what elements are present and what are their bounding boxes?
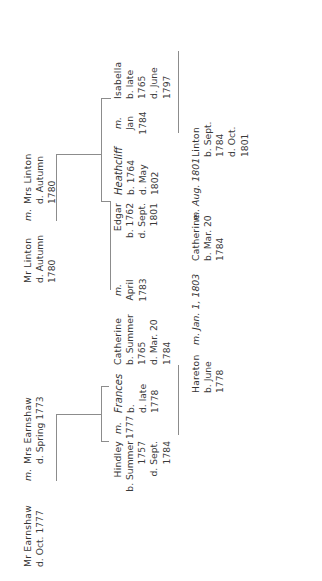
node-heathcliff: Heathcliff b. 1764 d. May 1802 <box>112 147 162 195</box>
hindley-marriage-symbol: m. <box>112 417 124 439</box>
heathcliff-name: Heathcliff <box>112 147 125 195</box>
mrs-earnshaw-death: d. Spring 1773 <box>34 396 46 464</box>
linton-descent-line <box>56 154 102 155</box>
isabella-death: d. June <box>148 62 160 99</box>
node-hindley: Hindley b. Summer 1757 d. Sept. 1784 <box>112 441 173 519</box>
hareton-marriage: m. Jan. 1, 1803 <box>190 274 202 345</box>
heathcliff-marriage-symbol: m. <box>112 109 124 137</box>
isabella-death-year: 1797 <box>161 62 173 99</box>
catherine-elder-death: d. Mar. 20 <box>148 314 160 365</box>
heathcliff-marriage-month: Jan <box>124 109 136 137</box>
hindley-frances-union-line <box>178 365 179 435</box>
linton-death: d. Oct. <box>226 121 238 157</box>
node-edgar: Edgar b. 1762 d. Sept. 1801 <box>112 203 161 265</box>
heathcliff-marriage-year: 1784 <box>137 109 149 137</box>
mrs-earnshaw-name: Mrs Earnshaw <box>22 396 34 464</box>
mrs-linton-death: d. Autumn <box>34 154 46 204</box>
node-catherine-elder: Catherine b. Summer 1765 d. Mar. 20 1784 <box>112 314 173 365</box>
catherine-elder-marriage-month: April <box>124 273 136 307</box>
isabella-birth: b. late <box>124 62 136 99</box>
frances-death-year: 1778 <box>149 374 161 413</box>
diagram-rotation-wrapper: Mr Earnshaw d. Oct. 1777 m. Mrs Earnshaw… <box>0 0 322 581</box>
isabella-birth-year: 1765 <box>136 62 148 99</box>
linton-child-edgar-line <box>101 154 102 202</box>
edgar-death: d. Sept. <box>136 203 148 265</box>
linton-child-isabella-line <box>101 99 102 155</box>
family-tree-diagram: Mr Earnshaw d. Oct. 1777 m. Mrs Earnshaw… <box>0 0 322 581</box>
node-hareton: Hareton b. June 1778 <box>190 354 226 393</box>
frances-death: d. late <box>137 374 149 413</box>
catherine-elder-marriage: m. April 1783 <box>112 273 149 307</box>
hindley-marriage: m. 1777 <box>112 417 137 439</box>
heathcliff-death: d. May <box>137 147 149 195</box>
frances-birth: b. <box>125 374 137 413</box>
catherine-elder-birth: b. Summer <box>124 314 136 365</box>
linton-death-year: 1801 <box>239 121 251 157</box>
frances-name: Frances <box>112 374 125 413</box>
hindley-marriage-year: 1777 <box>124 417 136 439</box>
catherine-younger-birth-year: 1784 <box>214 214 226 261</box>
catherine-elder-marriage-year: 1783 <box>137 273 149 307</box>
node-isabella: Isabella b. late 1765 d. June 1797 <box>112 62 173 99</box>
earnshaw-union-line <box>56 415 57 481</box>
hindley-drop-line <box>101 441 109 442</box>
catherine-younger-birth: b. Mar. 20 <box>202 214 214 261</box>
hindley-death-year: 1784 <box>161 441 173 519</box>
linton-birth-year: 1784 <box>214 121 226 157</box>
node-mrs-earnshaw: Mrs Earnshaw d. Spring 1773 <box>22 396 46 464</box>
hareton-birth-year: 1778 <box>214 354 226 393</box>
mr-linton-name: Mr Linton <box>22 235 34 283</box>
edgar-drop-line <box>101 201 111 202</box>
catherine-drop-line <box>101 386 109 387</box>
mr-earnshaw-name: Mr Earnshaw <box>22 505 34 567</box>
node-linton-heathcliff: Linton b. Sept. 1784 d. Oct. 1801 <box>190 121 251 157</box>
linton-union-line <box>56 155 57 221</box>
hindley-birth: b. Summer <box>124 441 136 519</box>
linton-marriage-symbol: m. <box>22 209 34 221</box>
node-frances: Frances b. d. late 1778 <box>112 374 162 413</box>
heathcliff-marriage: m. Jan 1784 <box>112 109 149 137</box>
hareton-birth: b. June <box>202 354 214 393</box>
mr-linton-death-year: 1780 <box>46 235 58 283</box>
isabella-name: Isabella <box>112 62 124 99</box>
catherine-elder-marriage-symbol: m. <box>112 273 124 307</box>
heathcliff-birth: b. 1764 <box>125 147 137 195</box>
hindley-birth-year: 1757 <box>136 441 148 519</box>
hindley-name: Hindley <box>112 441 124 519</box>
hindley-death: d. Sept. <box>148 441 160 519</box>
hareton-name: Hareton <box>190 354 202 393</box>
node-mr-linton: Mr Linton d. Autumn 1780 <box>22 235 58 283</box>
heathcliff-isabella-union-line <box>178 51 179 133</box>
earnshaw-descent-line <box>56 414 102 415</box>
edgar-name: Edgar <box>112 203 124 265</box>
earnshaw-marriage-symbol: m. <box>22 469 34 481</box>
linton-name: Linton <box>190 121 202 157</box>
edgar-death-year: 1801 <box>148 203 160 265</box>
mr-linton-death: d. Autumn <box>34 235 46 283</box>
node-mrs-linton: Mrs Linton d. Autumn 1780 <box>22 154 58 204</box>
heathcliff-death-year: 1802 <box>149 147 161 195</box>
earnshaw-child-hindley-line <box>101 414 102 442</box>
earnshaw-child-catherine-line <box>101 387 102 415</box>
catherine-elder-death-year: 1784 <box>161 314 173 365</box>
node-mr-earnshaw: Mr Earnshaw d. Oct. 1777 <box>22 505 46 567</box>
mr-earnshaw-death: d. Oct. 1777 <box>34 505 46 567</box>
isabella-drop-line <box>101 98 111 99</box>
catherine-elder-birth-year: 1765 <box>136 314 148 365</box>
catherine-elder-name: Catherine <box>112 314 124 365</box>
linton-catherine-marriage: m. Aug. 1801 <box>190 158 202 221</box>
mrs-linton-name: Mrs Linton <box>22 154 34 204</box>
catherine-edgar-union-line <box>110 202 111 290</box>
linton-birth: b. Sept. <box>202 121 214 157</box>
edgar-birth: b. 1762 <box>124 203 136 265</box>
